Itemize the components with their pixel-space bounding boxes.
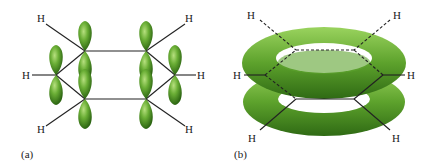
svg-text:H: H [393, 9, 401, 21]
panel-b-label: (b) [234, 148, 247, 161]
svg-text:H: H [248, 132, 256, 144]
svg-text:H: H [392, 132, 400, 144]
panel-a-label: (a) [21, 148, 34, 161]
panel-a-h-labels: H H H H H H [22, 12, 205, 135]
panel-a-lobes [49, 21, 182, 129]
upper-torus [242, 27, 406, 99]
svg-text:H: H [185, 123, 193, 135]
svg-text:H: H [407, 69, 415, 81]
svg-text:H: H [37, 12, 45, 24]
svg-text:H: H [247, 9, 255, 21]
svg-text:H: H [22, 69, 30, 81]
panel-a-bonds [32, 24, 196, 126]
panel-b-pi-cloud: H H H H H H (b) [233, 9, 415, 161]
svg-text:H: H [197, 69, 205, 81]
svg-text:H: H [185, 12, 193, 24]
svg-text:H: H [233, 69, 241, 81]
figure-canvas: H H H H H H (a) [0, 0, 430, 167]
panel-a-p-orbitals: H H H H H H (a) [21, 12, 205, 161]
svg-text:H: H [37, 123, 45, 135]
